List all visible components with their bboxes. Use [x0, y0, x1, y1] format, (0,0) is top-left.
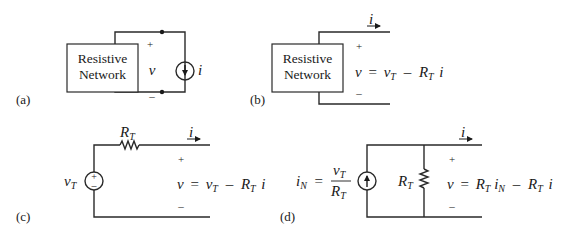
- source-label-iN: iN =: [296, 173, 323, 192]
- resistor-label-RT: RT: [119, 124, 136, 142]
- box-line1: Resistive: [78, 51, 128, 66]
- panel-c-bottom-wire: [94, 190, 210, 217]
- minus-sign: –: [148, 90, 155, 102]
- current-i: i: [189, 124, 193, 140]
- current-i: i: [461, 124, 465, 140]
- panel-a-node-bottom: [160, 90, 164, 94]
- resistor-label-RT: RT: [397, 173, 414, 191]
- resistor-icon: [120, 141, 139, 149]
- panel-a-label: (a): [16, 92, 30, 107]
- panel-d: (d) iN = vT RT RT i + – v =: [280, 124, 553, 224]
- panel-b-bottom-wire: [319, 92, 390, 104]
- plus-sign: +: [147, 38, 153, 50]
- equation-c: v = vT – RT i: [177, 176, 266, 195]
- panel-d-label: (d): [280, 209, 295, 224]
- minus-sign: –: [177, 200, 184, 212]
- panel-b-label: (b): [250, 92, 265, 107]
- equation-d: v = RT iN – RT i: [447, 176, 553, 195]
- source-label-vT: vT: [64, 173, 78, 191]
- fraction-numerator: vT: [333, 162, 347, 180]
- thevenin-norton-diagram: (a) Resistive Network i + v – (b) Resist…: [0, 0, 562, 232]
- resistor-icon: [420, 169, 428, 188]
- source-label-i: i: [198, 62, 202, 78]
- panel-b: (b) Resistive Network i + – v = vT – RT …: [250, 11, 444, 107]
- panel-c: (c) + – vT RT i + – v = vT – RT i: [16, 124, 266, 224]
- panel-c-label: (c): [16, 209, 30, 224]
- plus-sign: +: [178, 153, 184, 165]
- plus-sign: +: [356, 40, 362, 52]
- current-i: i: [369, 11, 373, 27]
- fraction-denominator: RT: [330, 183, 347, 201]
- panel-a: (a) Resistive Network i + v –: [16, 30, 202, 107]
- svg-text:–: –: [91, 180, 98, 191]
- equation-b: v = vT – RT i: [355, 64, 444, 83]
- box-line1: Resistive: [283, 51, 333, 66]
- box-line2: Network: [284, 67, 331, 82]
- box-line2: Network: [79, 67, 126, 82]
- plus-sign: +: [449, 153, 455, 165]
- panel-b-top-wire: [319, 32, 390, 44]
- minus-sign: –: [355, 87, 362, 99]
- panel-a-node-top: [160, 30, 164, 34]
- panel-c-left-top-wire: [94, 145, 120, 172]
- minus-sign: –: [448, 200, 455, 212]
- voltage-v: v: [149, 62, 156, 78]
